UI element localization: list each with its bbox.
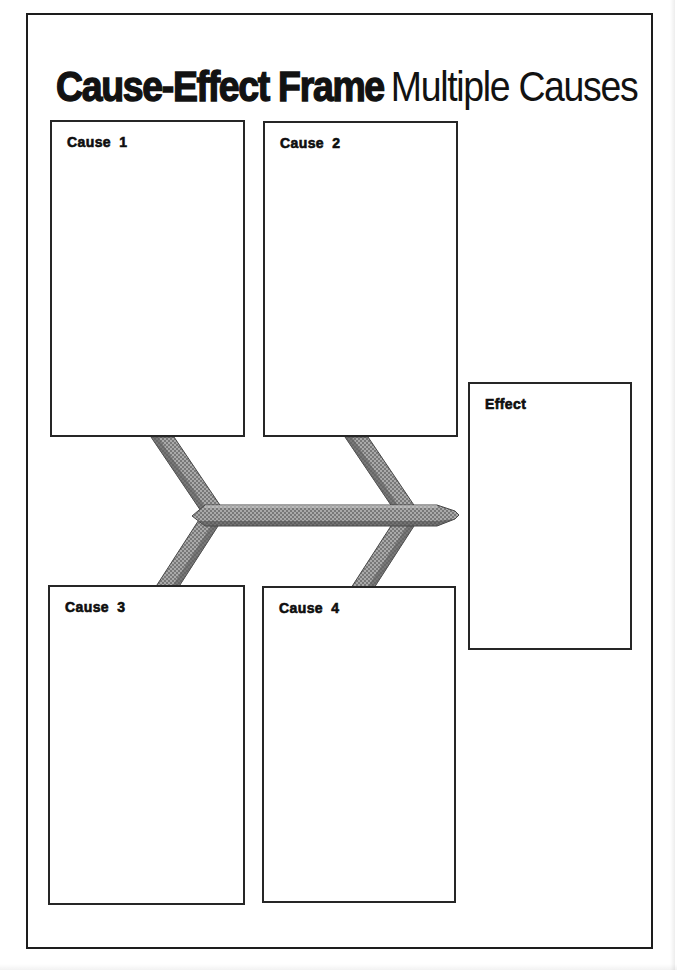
cause3-box: Cause 3 — [48, 585, 245, 905]
effect-label: Effect — [485, 396, 526, 412]
cause1-box: Cause 1 — [50, 120, 245, 437]
cause4-box: Cause 4 — [262, 586, 456, 903]
cause3-label: Cause 3 — [65, 599, 126, 615]
effect-box: Effect — [468, 382, 632, 650]
cause4-label: Cause 4 — [279, 600, 340, 616]
cause1-label: Cause 1 — [67, 134, 128, 150]
cause2-box: Cause 2 — [263, 121, 458, 437]
spine-highlight — [205, 505, 437, 508]
cause2-label: Cause 2 — [280, 135, 341, 151]
